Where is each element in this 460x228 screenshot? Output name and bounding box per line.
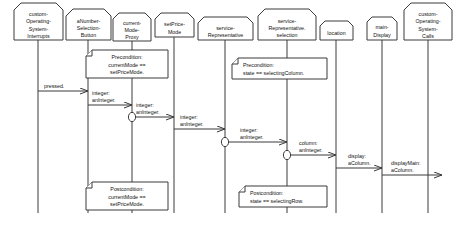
object-label-line: setPrice- (164, 21, 185, 27)
object-label-line: main- (375, 24, 388, 30)
sequence-diagram-svg: custom-Operating-System-InterruptsaNumbe… (0, 0, 460, 228)
message-label-line: pressed. (44, 83, 64, 89)
message-label-line: aColumn. (391, 167, 414, 173)
object-header-service-representative[interactable]: service-Representative (198, 17, 253, 40)
note-text-line: state == selectingColumn. (243, 70, 304, 76)
sequence-diagram-canvas: custom-Operating-System-InterruptsaNumbe… (0, 0, 460, 228)
message-label-line: column: (299, 140, 318, 146)
message-integer-aninteger-1[interactable]: integer:anInteger. (88, 90, 132, 105)
message-integer-aninteger-4[interactable]: integer:anInteger. (221, 127, 287, 147)
note-text-line: Precondition: (112, 54, 143, 60)
message-label-line: anInteger. (180, 121, 204, 127)
message-origin-circle-icon (283, 150, 290, 159)
object-header-setprice-mode[interactable]: setPrice-Mode (155, 13, 194, 37)
message-pressed[interactable]: pressed. (38, 83, 88, 91)
object-label-line: Operating- (26, 18, 51, 24)
object-header-current-mode-proxy[interactable]: current-Mode-Proxy (113, 13, 151, 41)
note-text-line: currentMode == (108, 62, 145, 68)
object-label-line: service- (216, 25, 235, 31)
note-shape (232, 58, 327, 79)
object-label-line: selection (277, 32, 298, 38)
message-integer-aninteger-2[interactable]: integer:anInteger. (128, 102, 174, 122)
object-header-anumber-selection-button[interactable]: aNumber-Selection-Button (66, 9, 111, 40)
note-text-line: Postcondition: (110, 186, 143, 192)
object-label-line: Interrupts (27, 33, 50, 39)
note-text-line: Postcondition: (250, 190, 283, 196)
note-precondition-currentmode[interactable]: Precondition:currentMode ==setPriceMode. (86, 50, 168, 78)
object-label-line: custom- (29, 11, 48, 17)
note-text-line: setPriceMode. (110, 69, 144, 75)
object-label-line: Button (81, 32, 96, 38)
note-postcondition-state-selectingrow[interactable]: Postcondition:state == selectingRow. (239, 186, 327, 207)
message-label-line: integer: (180, 114, 198, 120)
message-label-line: anInteger. (136, 109, 160, 115)
object-label-line: Display (373, 32, 391, 38)
message-origin-circle-icon (128, 112, 135, 121)
object-header-location[interactable]: location (320, 21, 353, 40)
message-column-aninteger[interactable]: column:anInteger. (283, 140, 336, 160)
message-label-line: anInteger. (92, 97, 116, 103)
message-origin-circle-icon (221, 137, 228, 146)
message-display-acolumn[interactable]: display:aColumn. (336, 153, 382, 168)
note-fold-corner-icon (239, 186, 245, 192)
note-precondition-state-selectingcolumn[interactable]: Precondition:state == selectingColumn. (232, 58, 327, 79)
object-header-service-representative-selection[interactable]: service-Representative.selection (258, 9, 316, 40)
note-text-line: currentMode == (108, 194, 145, 200)
note-text-line: state == selectingRow. (250, 198, 303, 204)
message-label-line: anInteger. (299, 147, 323, 153)
messages-layer: pressed.integer:anInteger.integer:anInte… (38, 83, 442, 175)
object-label-line: System- (29, 26, 49, 32)
message-integer-aninteger-3[interactable]: integer:anInteger. (174, 114, 225, 129)
note-text-line: Precondition: (243, 62, 274, 68)
message-label-line: anInteger. (240, 134, 264, 140)
object-label-line: current- (123, 20, 141, 26)
object-header-custom-operating-system-calls[interactable]: custom-Operating-System-Calls (404, 3, 452, 40)
object-label-line: Operating- (415, 18, 440, 24)
message-label-line: aColumn. (348, 160, 371, 166)
message-label-line: displayMain: (391, 160, 420, 166)
object-label-line: location (327, 30, 345, 36)
message-label-line: integer: (136, 102, 154, 108)
object-header-main-display[interactable]: main-Display (367, 17, 397, 40)
message-label-line: integer: (240, 127, 258, 133)
object-label-line: Mode- (124, 27, 139, 33)
object-label-line: Proxy (125, 34, 139, 40)
message-displaymain-acolumn[interactable]: displayMain:aColumn. (382, 160, 442, 175)
object-headers-layer: custom-Operating-System-InterruptsaNumbe… (14, 3, 452, 41)
object-label-line: Selection- (77, 25, 101, 31)
object-label-line: service- (278, 18, 297, 24)
object-label-line: Mode (168, 29, 181, 35)
object-label-line: Calls (422, 33, 434, 39)
note-fold-corner-icon (86, 50, 92, 56)
object-label-line: aNumber- (77, 18, 101, 24)
object-label-line: System- (418, 26, 438, 32)
message-label-line: display: (348, 153, 366, 159)
object-label-line: custom- (419, 11, 438, 17)
notes-layer: Precondition:currentMode ==setPriceMode.… (86, 50, 327, 210)
object-label-line: Representative (208, 32, 244, 38)
message-label-line: integer: (92, 90, 110, 96)
note-text-line: setPriceMode. (110, 201, 144, 207)
object-header-custom-operating-system-interrupts[interactable]: custom-Operating-System-Interrupts (14, 3, 63, 40)
note-shape (239, 186, 327, 207)
note-postcondition-currentmode[interactable]: Postcondition:currentMode ==setPriceMode… (86, 182, 168, 210)
object-label-line: Representative. (268, 25, 305, 31)
